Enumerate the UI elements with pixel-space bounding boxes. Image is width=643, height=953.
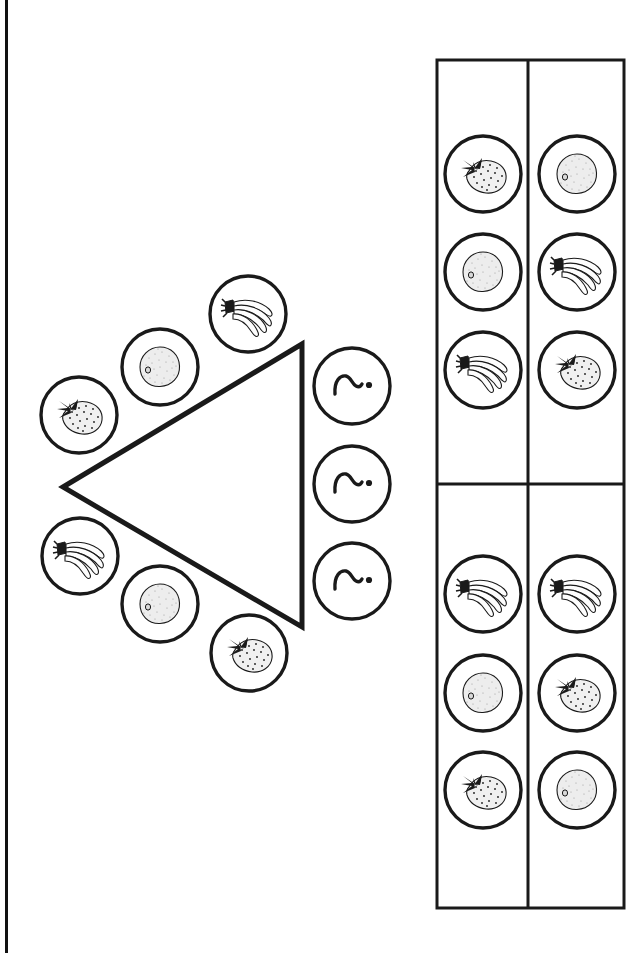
fruit-circle[interactable] — [445, 332, 521, 408]
squiggle-circle[interactable] — [314, 543, 390, 619]
fruit-circle[interactable] — [539, 136, 615, 212]
fruit-grid-table — [437, 60, 624, 908]
kiwi-icon — [140, 584, 180, 624]
fruit-circle[interactable] — [539, 752, 615, 828]
kiwi-icon — [557, 154, 597, 194]
fruit-circle[interactable] — [539, 332, 615, 408]
fruit-circle[interactable] — [445, 752, 521, 828]
fruit-circle[interactable] — [539, 234, 615, 310]
fruit-circle[interactable] — [539, 655, 615, 731]
kiwi-icon — [557, 770, 597, 810]
fruit-circle[interactable] — [210, 276, 286, 352]
fruit-circle[interactable] — [445, 136, 521, 212]
worksheet-page — [0, 0, 643, 953]
kiwi-icon — [140, 347, 180, 387]
worksheet-canvas — [0, 0, 643, 953]
fruit-circle[interactable] — [539, 556, 615, 632]
circle-outline — [314, 543, 390, 619]
squiggle-circle[interactable] — [314, 348, 390, 424]
circle-outline — [314, 446, 390, 522]
squiggle-column-group — [314, 348, 390, 619]
fruit-circle[interactable] — [211, 615, 287, 691]
circle-outline — [314, 348, 390, 424]
fruit-circle[interactable] — [41, 377, 117, 453]
fruit-circle[interactable] — [42, 518, 118, 594]
fruit-circle[interactable] — [445, 234, 521, 310]
triangle-sorting-diagram — [41, 276, 390, 691]
squiggle-circle[interactable] — [314, 446, 390, 522]
kiwi-icon — [463, 252, 503, 292]
fruit-circle[interactable] — [122, 329, 198, 405]
kiwi-icon — [463, 673, 503, 713]
fruit-circle[interactable] — [445, 655, 521, 731]
fruit-circle[interactable] — [122, 566, 198, 642]
fruit-circle[interactable] — [445, 556, 521, 632]
